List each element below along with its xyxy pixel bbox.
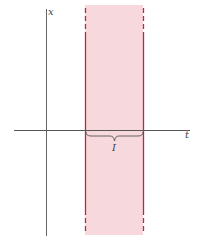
interval-band <box>85 5 143 235</box>
vertical-axis-label: x <box>48 6 54 17</box>
diagram-canvas: x t I <box>0 0 200 240</box>
